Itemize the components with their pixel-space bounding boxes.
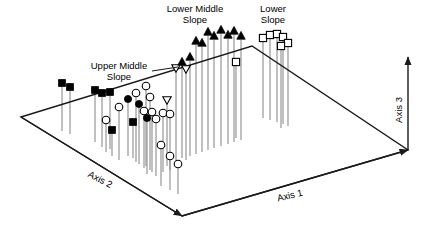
lower-slope-line-1: Lower xyxy=(260,3,286,14)
axis-3-label: Axis 3 xyxy=(393,97,404,123)
symbol-filled-circle xyxy=(124,95,131,102)
symbol-filled-square xyxy=(107,89,114,96)
lower-middle-slope-line-1: Lower Middle xyxy=(167,3,224,14)
symbol-filled-triangle-up xyxy=(217,25,225,33)
lower-middle-slope-line-2: Slope xyxy=(183,14,207,25)
symbol-open-triangle-down xyxy=(163,97,171,104)
symbol-open-circle xyxy=(159,109,167,117)
symbol-open-circle xyxy=(146,93,154,101)
symbol-open-circle xyxy=(148,108,156,116)
symbol-open-circle xyxy=(174,160,182,168)
symbol-filled-square xyxy=(59,80,66,87)
symbol-open-square xyxy=(284,39,291,46)
symbol-filled-square xyxy=(99,90,106,97)
symbol-open-square xyxy=(277,42,284,49)
upper-middle-slope-line-2: Slope xyxy=(107,71,131,82)
symbol-filled-triangle-up xyxy=(237,31,245,39)
symbol-filled-square xyxy=(109,127,116,134)
symbols-layer xyxy=(59,25,292,167)
symbol-filled-circle xyxy=(135,100,142,107)
symbol-open-circle xyxy=(132,89,140,97)
symbol-filled-triangle-up xyxy=(178,57,186,65)
symbol-filled-triangle-up xyxy=(204,27,212,35)
symbol-filled-triangle-up xyxy=(186,52,194,60)
symbol-open-circle xyxy=(142,82,150,90)
symbol-open-circle xyxy=(140,107,148,115)
symbol-filled-triangle-up xyxy=(230,26,238,34)
ordination-plot-svg: Axis 1Axis 2Axis 3 Lower MiddleSlopeUppe… xyxy=(0,0,426,232)
symbol-filled-square xyxy=(67,84,74,91)
symbol-open-circle xyxy=(102,116,110,124)
upper-middle-slope-label: Upper MiddleSlope xyxy=(91,60,148,82)
symbol-open-square xyxy=(232,58,239,65)
axis-1-arrow xyxy=(182,150,408,216)
symbol-open-circle xyxy=(115,103,123,111)
symbol-filled-triangle-up xyxy=(192,36,200,44)
symbol-filled-circle xyxy=(143,114,150,121)
lower-slope-label: LowerSlope xyxy=(260,3,286,25)
symbol-open-circle xyxy=(166,152,174,160)
symbol-open-circle xyxy=(152,115,160,123)
symbol-open-square xyxy=(259,34,266,41)
axis-1-label: Axis 1 xyxy=(276,187,304,204)
symbol-open-circle xyxy=(157,141,165,149)
lower-slope-line-2: Slope xyxy=(261,14,285,25)
symbol-filled-square xyxy=(130,119,137,126)
upper-middle-slope-line-1: Upper Middle xyxy=(91,60,148,71)
lower-middle-slope-label: Lower MiddleSlope xyxy=(167,3,224,25)
symbol-open-circle xyxy=(166,110,174,118)
symbol-open-square xyxy=(266,31,273,38)
symbol-open-triangle-down xyxy=(182,66,190,73)
symbol-filled-square xyxy=(92,87,99,94)
figure-root: Axis 1Axis 2Axis 3 Lower MiddleSlopeUppe… xyxy=(0,0,426,232)
